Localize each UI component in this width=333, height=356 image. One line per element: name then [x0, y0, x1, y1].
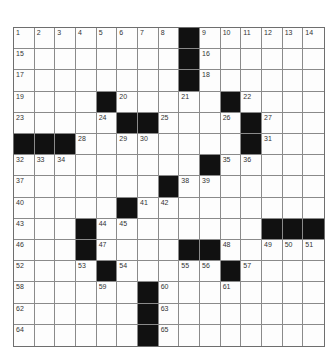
grid-cell[interactable]: 48	[221, 240, 242, 261]
grid-cell[interactable]	[55, 176, 76, 197]
grid-cell[interactable]	[159, 219, 180, 240]
grid-cell[interactable]	[35, 240, 56, 261]
grid-cell[interactable]	[159, 134, 180, 155]
grid-cell[interactable]	[138, 92, 159, 113]
grid-cell[interactable]: 25	[159, 113, 180, 134]
grid-cell[interactable]	[97, 304, 118, 325]
grid-cell[interactable]: 49	[262, 240, 283, 261]
grid-cell[interactable]: 35	[221, 155, 242, 176]
grid-cell[interactable]: 7	[138, 28, 159, 49]
grid-cell[interactable]: 15	[14, 49, 35, 70]
grid-cell[interactable]: 31	[262, 134, 283, 155]
grid-cell[interactable]: 4	[76, 28, 97, 49]
grid-cell[interactable]: 32	[14, 155, 35, 176]
grid-cell[interactable]: 34	[55, 155, 76, 176]
grid-cell[interactable]: 16	[200, 49, 221, 70]
grid-cell[interactable]	[35, 113, 56, 134]
grid-cell[interactable]: 24	[97, 113, 118, 134]
grid-cell[interactable]: 18	[200, 70, 221, 91]
grid-cell[interactable]	[303, 155, 324, 176]
grid-cell[interactable]: 43	[14, 219, 35, 240]
grid-cell[interactable]	[262, 198, 283, 219]
grid-cell[interactable]	[200, 219, 221, 240]
grid-cell[interactable]	[283, 282, 304, 303]
grid-cell[interactable]	[262, 92, 283, 113]
grid-cell[interactable]: 26	[221, 113, 242, 134]
grid-cell[interactable]: 6	[117, 28, 138, 49]
grid-cell[interactable]	[241, 325, 262, 346]
grid-cell[interactable]	[262, 325, 283, 346]
grid-cell[interactable]: 58	[14, 282, 35, 303]
grid-cell[interactable]: 62	[14, 304, 35, 325]
grid-cell[interactable]	[200, 282, 221, 303]
grid-cell[interactable]	[97, 325, 118, 346]
grid-cell[interactable]	[76, 282, 97, 303]
grid-cell[interactable]	[55, 282, 76, 303]
grid-cell[interactable]	[159, 240, 180, 261]
grid-cell[interactable]	[159, 261, 180, 282]
grid-cell[interactable]	[283, 176, 304, 197]
grid-cell[interactable]	[76, 198, 97, 219]
grid-cell[interactable]	[35, 198, 56, 219]
grid-cell[interactable]: 23	[14, 113, 35, 134]
grid-cell[interactable]	[55, 92, 76, 113]
grid-cell[interactable]	[35, 92, 56, 113]
grid-cell[interactable]	[221, 176, 242, 197]
grid-cell[interactable]: 29	[117, 134, 138, 155]
grid-cell[interactable]	[117, 282, 138, 303]
grid-cell[interactable]: 13	[283, 28, 304, 49]
grid-cell[interactable]	[76, 92, 97, 113]
grid-cell[interactable]: 64	[14, 325, 35, 346]
grid-cell[interactable]: 21	[179, 92, 200, 113]
grid-cell[interactable]	[200, 92, 221, 113]
grid-cell[interactable]	[221, 325, 242, 346]
grid-cell[interactable]	[76, 49, 97, 70]
grid-cell[interactable]	[55, 70, 76, 91]
grid-cell[interactable]	[283, 325, 304, 346]
grid-cell[interactable]: 59	[97, 282, 118, 303]
grid-cell[interactable]	[303, 282, 324, 303]
grid-cell[interactable]	[159, 155, 180, 176]
grid-cell[interactable]	[303, 113, 324, 134]
grid-cell[interactable]	[200, 304, 221, 325]
grid-cell[interactable]	[262, 49, 283, 70]
grid-cell[interactable]: 12	[262, 28, 283, 49]
grid-cell[interactable]	[221, 304, 242, 325]
grid-cell[interactable]	[138, 155, 159, 176]
grid-cell[interactable]: 61	[221, 282, 242, 303]
grid-cell[interactable]	[35, 49, 56, 70]
grid-cell[interactable]	[55, 49, 76, 70]
grid-cell[interactable]	[221, 134, 242, 155]
grid-cell[interactable]	[97, 155, 118, 176]
grid-cell[interactable]	[138, 219, 159, 240]
grid-cell[interactable]	[179, 113, 200, 134]
grid-cell[interactable]: 5	[97, 28, 118, 49]
grid-cell[interactable]	[35, 261, 56, 282]
grid-cell[interactable]: 8	[159, 28, 180, 49]
grid-cell[interactable]	[179, 325, 200, 346]
grid-cell[interactable]	[200, 134, 221, 155]
grid-cell[interactable]	[138, 240, 159, 261]
grid-cell[interactable]: 42	[159, 198, 180, 219]
grid-cell[interactable]	[303, 92, 324, 113]
grid-cell[interactable]	[76, 176, 97, 197]
grid-cell[interactable]	[200, 325, 221, 346]
grid-cell[interactable]: 28	[76, 134, 97, 155]
grid-cell[interactable]	[138, 70, 159, 91]
grid-cell[interactable]	[138, 49, 159, 70]
grid-cell[interactable]	[262, 282, 283, 303]
grid-cell[interactable]	[283, 49, 304, 70]
grid-cell[interactable]	[241, 282, 262, 303]
grid-cell[interactable]: 57	[241, 261, 262, 282]
grid-cell[interactable]	[97, 176, 118, 197]
grid-cell[interactable]: 17	[14, 70, 35, 91]
grid-cell[interactable]	[117, 70, 138, 91]
grid-cell[interactable]	[303, 134, 324, 155]
grid-cell[interactable]	[221, 198, 242, 219]
grid-cell[interactable]	[283, 261, 304, 282]
grid-cell[interactable]	[159, 92, 180, 113]
grid-cell[interactable]	[303, 176, 324, 197]
grid-cell[interactable]	[35, 70, 56, 91]
grid-cell[interactable]	[55, 219, 76, 240]
grid-cell[interactable]: 3	[55, 28, 76, 49]
